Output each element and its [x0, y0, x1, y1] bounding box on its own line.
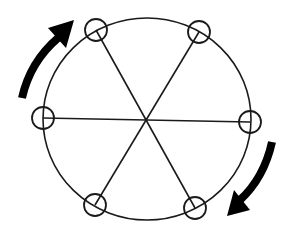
spokes — [43, 30, 250, 208]
spoke-diagonal-b — [95, 32, 199, 205]
rotation-diagram — [0, 0, 290, 228]
arrow-lower-right-icon — [227, 142, 272, 216]
